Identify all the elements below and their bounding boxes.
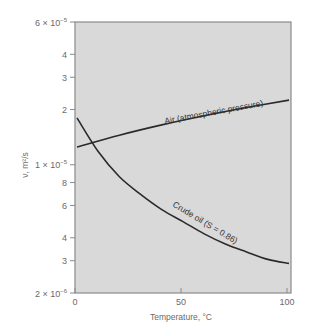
y-tick-label: 3 xyxy=(62,256,67,266)
y-tick-label: 8 xyxy=(62,178,67,188)
y-tick-label: 6 × 10−5 xyxy=(35,17,68,28)
x-tick-label: 0 xyxy=(72,297,77,307)
viscosity-chart: 6 × 10−54321 × 10−586432 × 10−6 050100 A… xyxy=(0,0,312,336)
plot-area xyxy=(75,22,291,293)
x-tick-label: 50 xyxy=(176,297,186,307)
y-tick-label: 4 xyxy=(62,233,67,243)
y-tick-label: 1 × 10−5 xyxy=(35,159,68,170)
y-tick-label: 2 xyxy=(62,105,67,115)
y-axis-ticks: 6 × 10−54321 × 10−586432 × 10−6 xyxy=(35,17,75,299)
y-tick-label: 3 xyxy=(62,73,67,83)
y-tick-label: 4 xyxy=(62,50,67,60)
y-tick-label: 6 xyxy=(62,201,67,211)
x-tick-label: 100 xyxy=(279,297,294,307)
y-tick-label: 2 × 10−6 xyxy=(35,288,68,299)
y-axis-label: ν, m²/s xyxy=(20,152,30,178)
x-axis-label: Temperature, °C xyxy=(150,312,212,322)
